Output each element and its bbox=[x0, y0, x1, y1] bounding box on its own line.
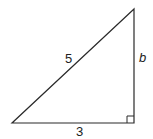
hypotenuse-label: 5 bbox=[65, 51, 72, 66]
height-label: b bbox=[139, 50, 146, 65]
base-label: 3 bbox=[76, 124, 83, 139]
right-triangle-diagram: 5 b 3 bbox=[0, 0, 153, 139]
right-angle-marker bbox=[127, 116, 134, 123]
triangle-shape bbox=[12, 9, 134, 123]
